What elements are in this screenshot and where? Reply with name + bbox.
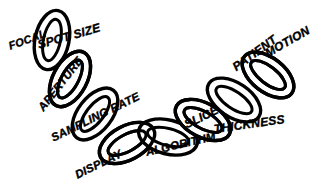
chain-diagram-figure: FOCAL SPOT SIZE APERTURE SAMPLING RATE D…: [0, 0, 312, 187]
